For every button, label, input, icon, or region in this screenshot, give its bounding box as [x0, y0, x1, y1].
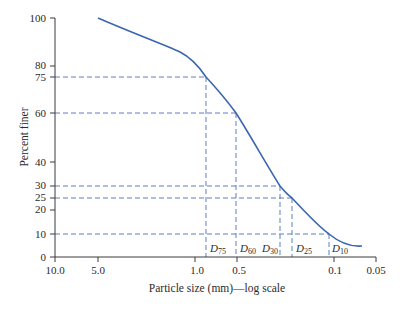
grain-size-chart: 100 80 75 60 40 30 25 20 10 0 10.0 5.0 1… [0, 0, 400, 309]
x-tick-0-1: 0.1 [328, 264, 342, 276]
d25-label: D25 [295, 242, 312, 256]
grain-size-curve [98, 18, 362, 246]
y-tick-40: 40 [35, 156, 47, 168]
x-axis-title: Particle size (mm)—log scale [149, 282, 285, 295]
x-tick-5: 5.0 [91, 264, 105, 276]
x-tick-10: 10.0 [45, 264, 65, 276]
y-tick-labels: 100 80 75 60 40 30 25 20 10 0 [30, 12, 47, 263]
y-tick-20: 20 [35, 203, 47, 215]
y-tick-0: 0 [41, 251, 47, 263]
y-tick-30: 30 [35, 179, 47, 191]
axes [50, 18, 376, 262]
y-tick-80: 80 [35, 59, 47, 71]
y-tick-10: 10 [35, 228, 47, 240]
y-tick-100: 100 [30, 12, 47, 24]
x-tick-1: 1.0 [190, 264, 204, 276]
y-tick-60: 60 [35, 107, 47, 119]
d60-label: D60 [239, 242, 256, 256]
x-tick-0-05: 0.05 [366, 264, 386, 276]
d30-label: D30 [261, 242, 278, 256]
y-axis-title: Percent finer [18, 107, 30, 166]
y-tick-25: 25 [35, 191, 47, 203]
d-labels: D75 D60 D30 D25 D10 [209, 242, 348, 256]
d75-label: D75 [209, 242, 226, 256]
reference-lines [55, 77, 329, 257]
x-tick-labels: 10.0 5.0 1.0 0.5 0.1 0.05 [45, 264, 386, 276]
y-tick-75: 75 [35, 71, 47, 83]
x-tick-0-5: 0.5 [232, 264, 246, 276]
